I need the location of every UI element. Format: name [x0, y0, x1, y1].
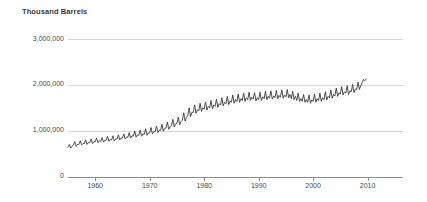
chart-container: Thousand Barrels 3,000,0002,000,0001,000…	[0, 0, 427, 202]
data-series-line	[68, 79, 366, 148]
plot-area	[0, 0, 427, 202]
